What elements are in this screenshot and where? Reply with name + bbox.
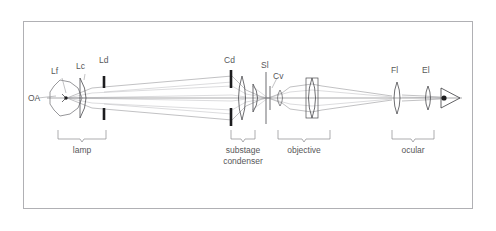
label-cover-glass: Cv <box>273 71 284 81</box>
group-label-objective: objective <box>287 145 321 155</box>
label-field-lens: Fl <box>391 65 398 75</box>
group-label-ocular: ocular <box>401 145 424 155</box>
group-label-substage: substage <box>226 145 261 155</box>
group-label-lamp: lamp <box>73 145 92 155</box>
label-eye-lens: El <box>422 65 430 75</box>
label-condenser-diaphragm: Cd <box>224 55 235 65</box>
group-bracket-lamp <box>58 130 106 142</box>
group-bracket-ocular <box>392 130 434 142</box>
leader-lf <box>62 78 66 93</box>
label-lamp-filament: Lf <box>51 66 59 76</box>
label-slide: Sl <box>261 60 269 70</box>
label-lamp-collector: Lc <box>76 61 86 71</box>
figure-border <box>24 22 473 209</box>
label-optical-axis: OA <box>28 93 41 103</box>
group-bracket-substage-condenser <box>231 130 255 142</box>
optical-diagram-figure: OA Lf Lc Ld Cd Sl Cv Fl El lamp substage… <box>0 0 496 231</box>
optical-path-svg: OA Lf Lc Ld Cd Sl Cv Fl El lamp substage… <box>0 0 496 231</box>
group-label-condenser: condenser <box>223 156 263 166</box>
group-bracket-objective <box>278 130 330 142</box>
label-lamp-diaphragm: Ld <box>99 55 109 65</box>
leader-lc <box>84 74 85 80</box>
